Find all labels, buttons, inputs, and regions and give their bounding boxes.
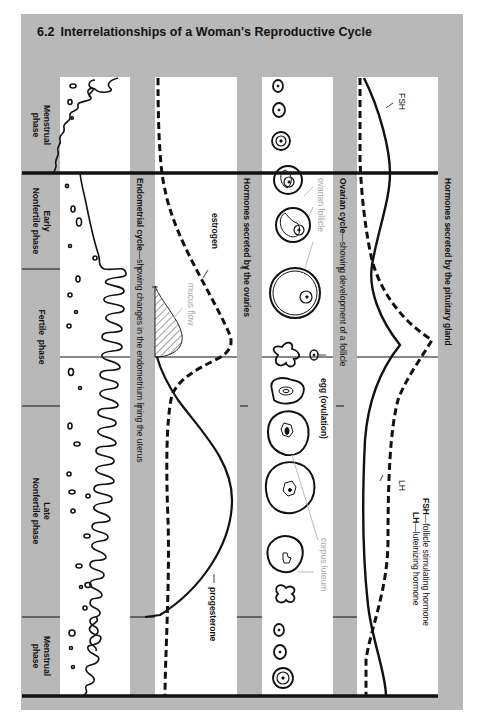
ovarian-follicle-label: ovarian follicle (316, 178, 326, 232)
phase-label-menstrual-2: Menstrual phase (31, 636, 52, 676)
svg-text:Early: Early (42, 211, 52, 232)
ovarian-hormone-heading: Hormones secreted by the ovaries (242, 178, 252, 317)
phase-label-fertile: Fertile phase (37, 310, 47, 365)
cycle-diagram: Menstrual phase Early Nonfertile phase F… (0, 0, 480, 721)
fsh-curve-label: FSH (397, 93, 407, 110)
svg-text:Menstrual: Menstrual (42, 636, 52, 676)
progesterone-label: progesterone (208, 587, 218, 642)
phase-labels: Menstrual phase Early Nonfertile phase F… (31, 105, 52, 676)
svg-text:phase: phase (31, 644, 41, 669)
svg-text:Fertile phase: Fertile phase (37, 310, 47, 365)
legend-lh: LH—luteinizing hormone (411, 512, 421, 606)
phase-label-menstrual-1: Menstrual phase (31, 105, 52, 145)
svg-text:Menstrual: Menstrual (42, 105, 52, 145)
svg-text:Nonfertile phase: Nonfertile phase (31, 478, 41, 545)
endometrial-heading: Endometrial cycle—showing changes in the… (135, 178, 145, 462)
ovarian-hormone-strip (155, 77, 237, 696)
svg-text:phase: phase (31, 113, 41, 138)
egg-ovulation-label: egg (ovulation) (319, 378, 329, 439)
lh-curve-label: LH (397, 480, 407, 491)
svg-text:Late: Late (42, 502, 52, 520)
legend-fsh: FSH—follicle stimulating hormone (421, 498, 431, 626)
estrogen-label: estrogen (210, 213, 220, 249)
endometrium-strip (60, 77, 130, 696)
phase-label-late-nonfertile: Late Nonfertile phase (31, 478, 52, 545)
ovarian-cycle-heading: Ovarian cycle—showing development of a f… (338, 178, 348, 367)
corpus-luteum-label: corpus luteum (319, 538, 329, 591)
phase-label-early-nonfertile: Early Nonfertile phase (31, 188, 52, 255)
mucus-flow-label: mucus flow (186, 283, 196, 326)
pituitary-heading: Hormones secreted by the pituitary gland (443, 178, 453, 346)
svg-text:Nonfertile phase: Nonfertile phase (31, 188, 41, 255)
